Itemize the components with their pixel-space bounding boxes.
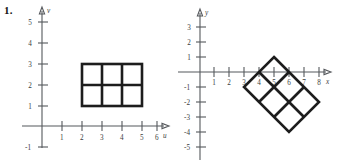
x-tick-label-8: 8 bbox=[317, 79, 321, 87]
u-tick-label-6: 6 bbox=[155, 134, 159, 142]
x-tick-label-4: 4 bbox=[257, 79, 261, 87]
u-tick-label-5: 5 bbox=[140, 134, 144, 142]
v-tick-label-3: 3 bbox=[28, 61, 32, 69]
u-tick-label-1: 1 bbox=[60, 134, 64, 142]
y-tick-label-2: 2 bbox=[187, 39, 191, 47]
v-axis-label: v bbox=[47, 7, 51, 15]
y-tick-label-1: 1 bbox=[187, 54, 191, 62]
x-tick-label-1: 1 bbox=[212, 79, 216, 87]
v-tick-label-4: 4 bbox=[28, 40, 32, 48]
v-tick-label-1: 1 bbox=[28, 103, 32, 111]
y-tick-label-m2: -2 bbox=[184, 99, 190, 107]
v-tick-label-2: 2 bbox=[28, 82, 32, 90]
y-axis-ticks bbox=[196, 27, 206, 147]
xy-plane-panel: y x 1 2 3 4 5 6 7 8 bbox=[170, 0, 345, 166]
x-tick-label-6: 6 bbox=[287, 79, 291, 87]
u-axis-tick-labels: 1 2 3 4 5 6 bbox=[60, 134, 159, 142]
v-tick-label-5: 5 bbox=[28, 19, 32, 27]
y-tick-label-m1: -1 bbox=[184, 84, 190, 92]
rotated-rectangle-region bbox=[244, 57, 319, 132]
figure-container: 1. v u 1 2 3 4 5 6 bbox=[0, 0, 345, 166]
x-tick-label-2: 2 bbox=[227, 79, 231, 87]
y-tick-label-m4: -4 bbox=[184, 129, 190, 137]
y-tick-label-m5: -5 bbox=[184, 144, 190, 152]
u-tick-label-2: 2 bbox=[80, 134, 84, 142]
v-axis-ticks bbox=[38, 22, 48, 147]
y-tick-label-m3: -3 bbox=[184, 114, 190, 122]
y-axis-label: y bbox=[204, 9, 209, 17]
v-axis-tick-labels: 5 4 3 2 1 -1 bbox=[25, 19, 32, 152]
y-tick-label-3: 3 bbox=[187, 24, 191, 32]
u-tick-label-3: 3 bbox=[100, 134, 104, 142]
v-tick-label-m1: -1 bbox=[25, 144, 31, 152]
y-axis-tick-labels: 3 2 1 -1 -2 -3 -4 -5 bbox=[184, 24, 191, 152]
uv-plane-panel: v u 1 2 3 4 5 6 bbox=[0, 0, 175, 166]
u-axis-label: u bbox=[163, 132, 167, 140]
x-axis-label: x bbox=[325, 78, 330, 86]
u-tick-label-4: 4 bbox=[120, 134, 124, 142]
rectangle-region bbox=[82, 64, 142, 106]
